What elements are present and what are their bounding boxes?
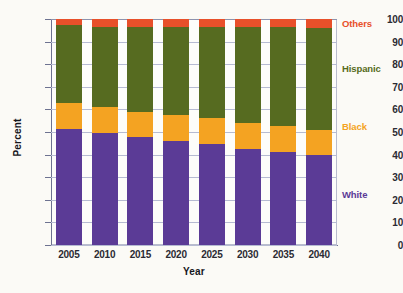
- bar-segment-black[interactable]: [270, 126, 296, 152]
- bar-segment-white[interactable]: [56, 129, 82, 245]
- y-tick-label: 40: [363, 149, 403, 160]
- bar-group[interactable]: [199, 19, 225, 245]
- bar-group[interactable]: [92, 19, 118, 245]
- bar-segment-white[interactable]: [163, 141, 189, 245]
- bar-segment-others[interactable]: [235, 19, 261, 27]
- bar-segment-white[interactable]: [127, 137, 153, 245]
- bar-segment-black[interactable]: [306, 130, 332, 155]
- bar-group[interactable]: [235, 19, 261, 245]
- bar-segment-white[interactable]: [270, 152, 296, 245]
- bar-group[interactable]: [306, 19, 332, 245]
- bar-stack: [306, 19, 332, 245]
- bar-group[interactable]: [56, 19, 82, 245]
- bar-segment-hispanic[interactable]: [127, 27, 153, 112]
- bar-segment-hispanic[interactable]: [92, 27, 118, 107]
- legend-item-hispanic[interactable]: Hispanic: [342, 63, 381, 74]
- y-tick-label: 50: [363, 127, 403, 138]
- bar-segment-black[interactable]: [199, 118, 225, 144]
- bar-segment-others[interactable]: [127, 19, 153, 27]
- bar-stack: [163, 19, 189, 245]
- x-tick-label: 2040: [297, 249, 341, 260]
- bar-segment-black[interactable]: [56, 103, 82, 129]
- bar-segment-others[interactable]: [199, 19, 225, 27]
- y-tick-label: 30: [363, 172, 403, 183]
- y-axis-title: Percent: [12, 103, 23, 173]
- gridline: [51, 245, 337, 246]
- bar-stack: [56, 19, 82, 245]
- bar-segment-others[interactable]: [163, 19, 189, 27]
- bar-segment-white[interactable]: [306, 155, 332, 245]
- y-tick-label: 10: [363, 217, 403, 228]
- bar-segment-hispanic[interactable]: [306, 28, 332, 130]
- bar-segment-others[interactable]: [56, 19, 82, 25]
- bar-segment-white[interactable]: [199, 144, 225, 245]
- bar-segment-hispanic[interactable]: [270, 27, 296, 126]
- bar-segment-white[interactable]: [92, 133, 118, 245]
- bar-series-layer: [51, 19, 337, 245]
- bar-segment-black[interactable]: [235, 123, 261, 149]
- x-axis-title: Year: [51, 266, 337, 277]
- bar-group[interactable]: [127, 19, 153, 245]
- bar-segment-hispanic[interactable]: [163, 27, 189, 115]
- bar-segment-others[interactable]: [92, 19, 118, 27]
- bar-stack: [127, 19, 153, 245]
- bar-segment-hispanic[interactable]: [235, 27, 261, 123]
- legend-item-others[interactable]: Others: [342, 18, 372, 29]
- bar-group[interactable]: [270, 19, 296, 245]
- bar-segment-white[interactable]: [235, 149, 261, 245]
- bar-stack: [270, 19, 296, 245]
- bar-segment-hispanic[interactable]: [56, 25, 82, 103]
- bar-stack: [235, 19, 261, 245]
- bar-segment-others[interactable]: [270, 19, 296, 27]
- bar-segment-black[interactable]: [92, 107, 118, 133]
- legend-item-black[interactable]: Black: [342, 121, 367, 132]
- y-tick-label: 20: [363, 194, 403, 205]
- legend-item-white[interactable]: White: [342, 189, 367, 200]
- chart-container: 0102030405060708090100 Percent 200520102…: [0, 0, 403, 293]
- bar-stack: [92, 19, 118, 245]
- y-tick-mark: [45, 245, 51, 246]
- bar-group[interactable]: [163, 19, 189, 245]
- bar-stack: [199, 19, 225, 245]
- y-tick-label: 0: [363, 240, 403, 251]
- bar-segment-hispanic[interactable]: [199, 27, 225, 119]
- y-tick-label: 90: [363, 36, 403, 47]
- bar-segment-others[interactable]: [306, 19, 332, 28]
- y-tick-label: 60: [363, 104, 403, 115]
- bar-segment-black[interactable]: [127, 112, 153, 137]
- y-tick-label: 70: [363, 81, 403, 92]
- bar-segment-black[interactable]: [163, 115, 189, 141]
